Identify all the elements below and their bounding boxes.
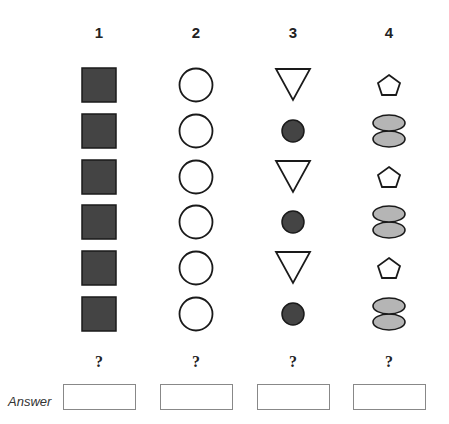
triangle-down-icon [271,246,315,290]
filled-square-icon [77,200,121,244]
next-shape-question-2: ? [176,353,216,371]
column-header-2: 2 [176,24,216,41]
answer-input-2[interactable] [160,384,233,410]
answer-label: Answer [8,394,51,409]
next-shape-question-3: ? [273,353,313,371]
double-ellipse-icon [367,292,411,336]
next-shape-question-1: ? [79,353,119,371]
filled-square-icon [77,63,121,107]
filled-square-icon [77,292,121,336]
triangle-down-icon [271,155,315,199]
pentagon-icon [367,63,411,107]
double-ellipse-icon [367,109,411,153]
pentagon-icon [367,155,411,199]
pentagon-icon [367,246,411,290]
filled-square-icon [77,246,121,290]
circle-icon [174,155,218,199]
circle-icon [174,109,218,153]
filled-square-icon [77,109,121,153]
double-ellipse-icon [367,200,411,244]
column-header-4: 4 [369,24,409,41]
circle-icon [174,292,218,336]
circle-icon [174,200,218,244]
answer-input-3[interactable] [257,384,330,410]
circle-icon [174,246,218,290]
filled-circle-icon [271,292,315,336]
filled-circle-icon [271,109,315,153]
triangle-down-icon [271,63,315,107]
circle-icon [174,63,218,107]
column-header-1: 1 [79,24,119,41]
next-shape-question-4: ? [369,353,409,371]
answer-input-1[interactable] [63,384,136,410]
answer-input-4[interactable] [353,384,426,410]
filled-square-icon [77,155,121,199]
filled-circle-icon [271,200,315,244]
column-header-3: 3 [273,24,313,41]
